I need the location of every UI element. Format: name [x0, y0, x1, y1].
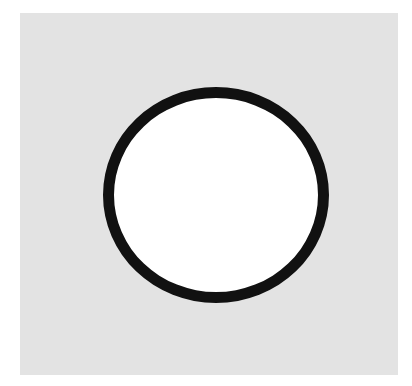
circle-outline-shape: [103, 87, 329, 303]
